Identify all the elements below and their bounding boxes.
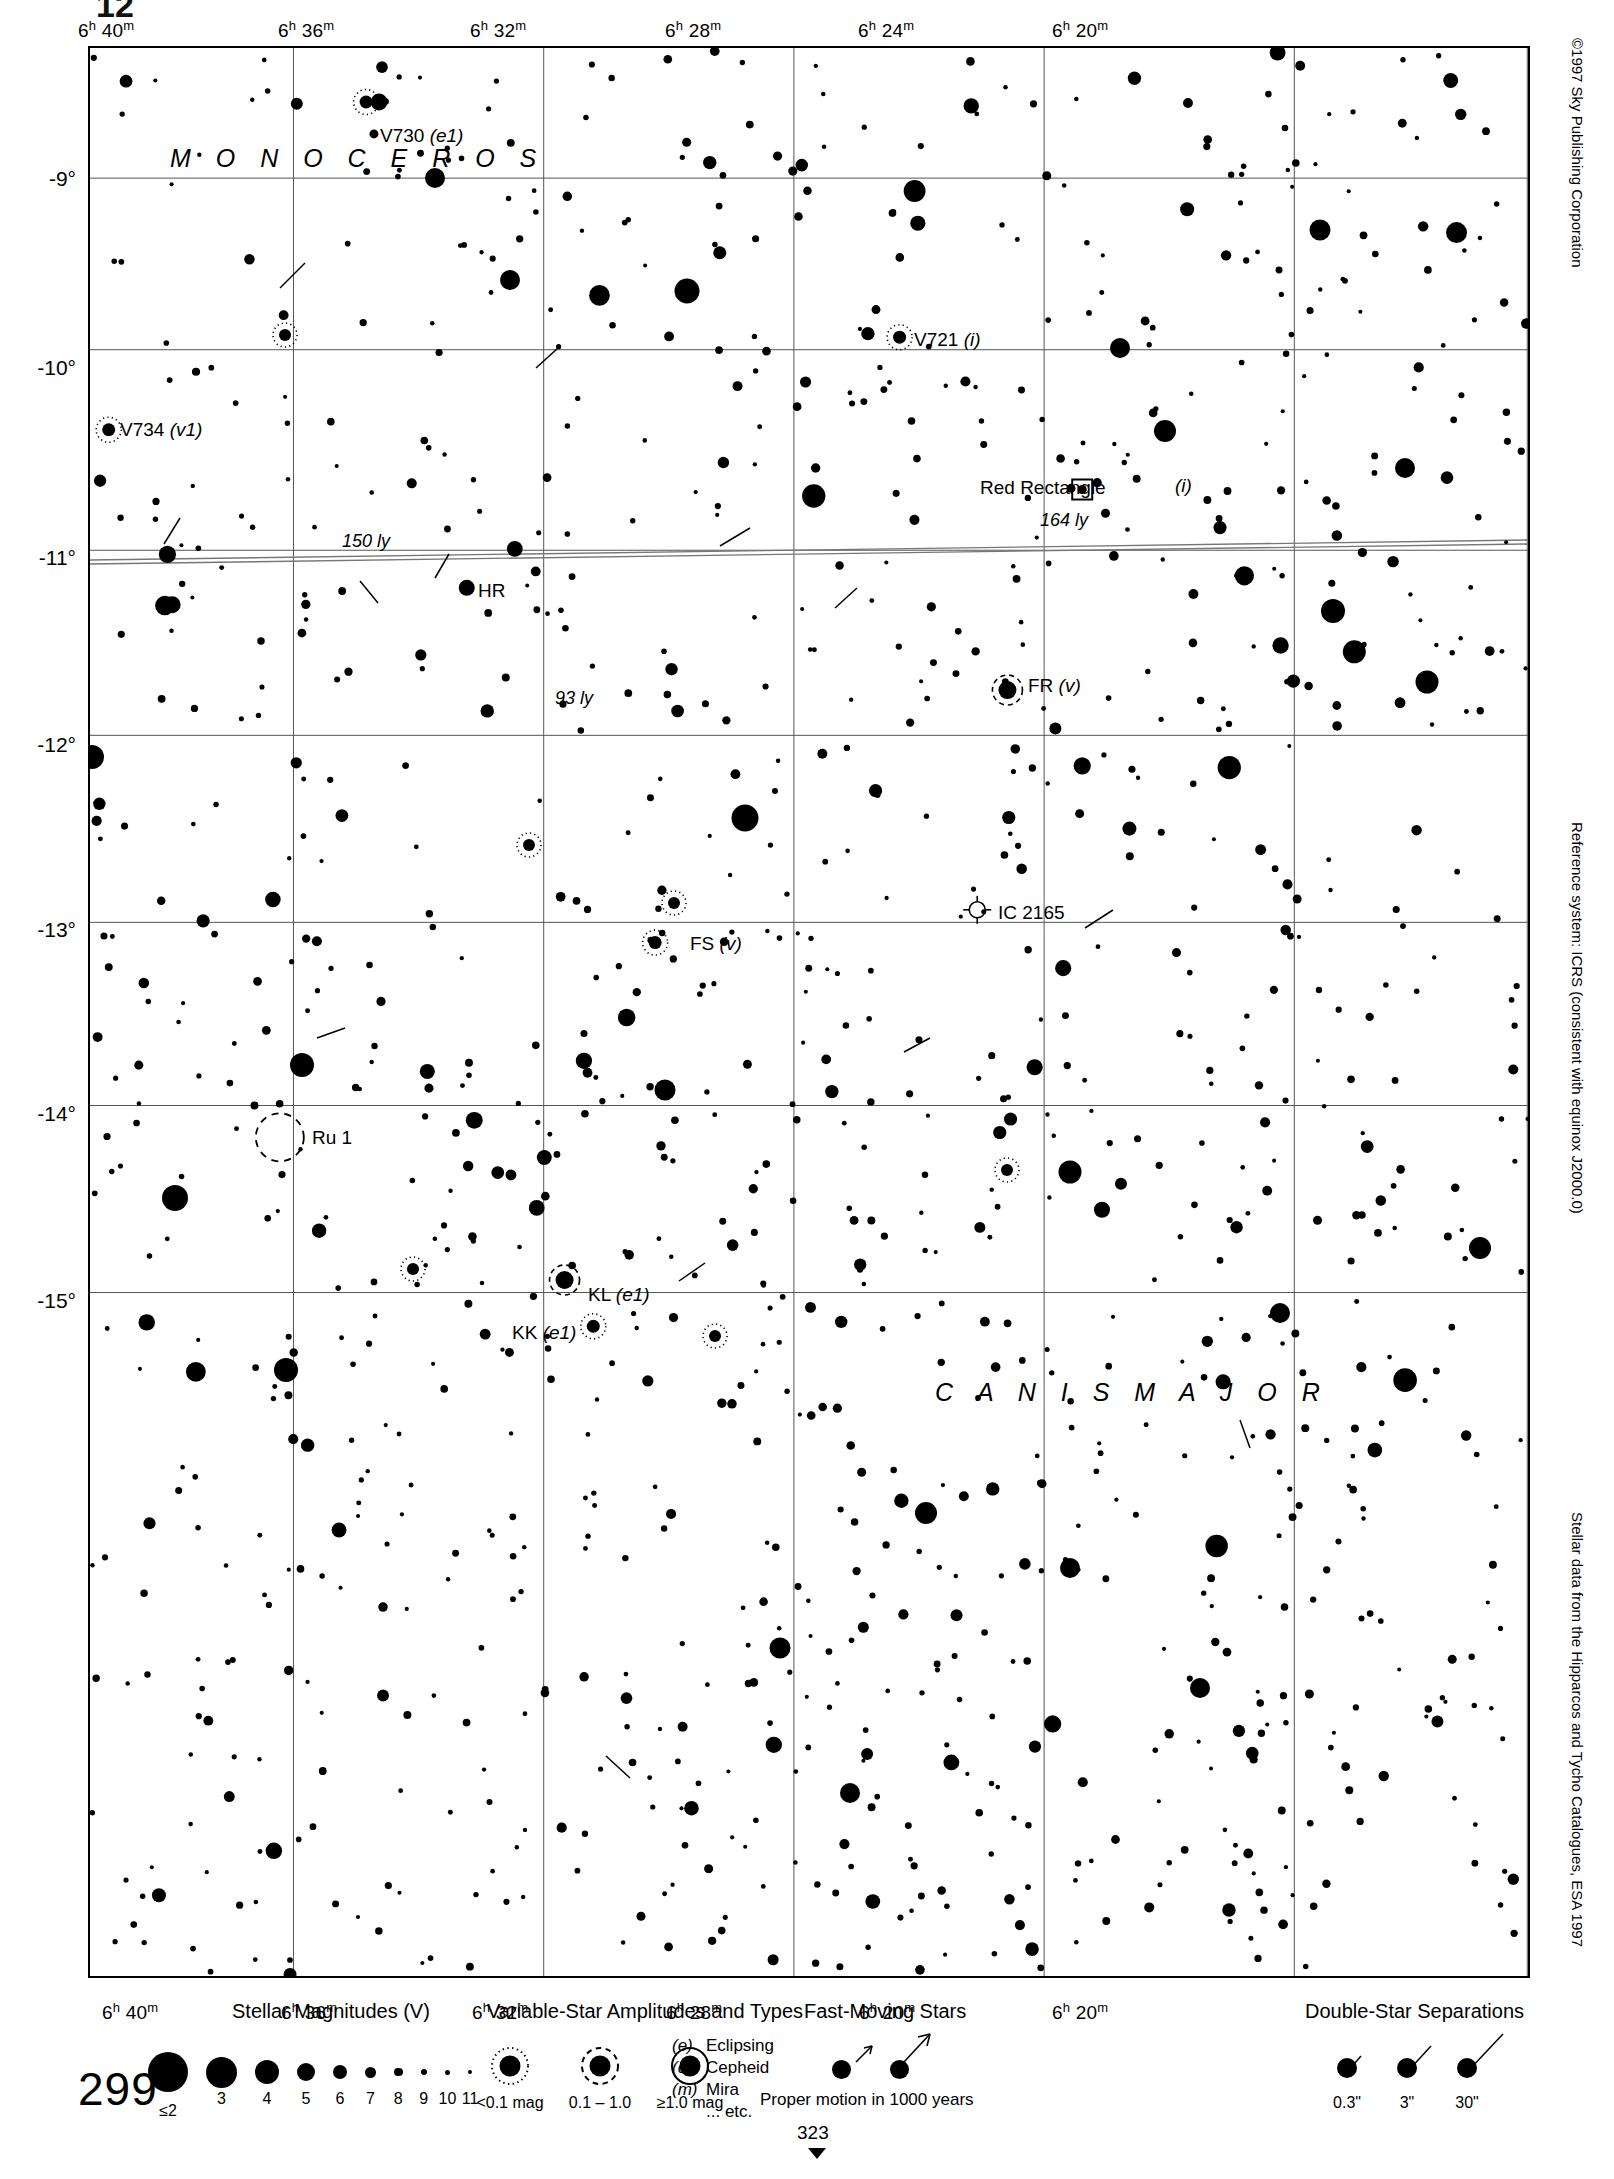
double-star-companion-line-2 <box>1467 2032 1505 2072</box>
distance-annotation-164ly: 164 ly <box>1040 510 1088 531</box>
variable-amplitude-label-1: 0.1 – 1.0 <box>554 2094 646 2112</box>
magnitude-label-0: ≤2 <box>146 2102 190 2120</box>
double-star-label-0: 0.3" <box>1315 2094 1379 2112</box>
continuation-number: 323 <box>797 2122 829 2144</box>
object-label-red-rectangle-type: (i) <box>1175 476 1192 495</box>
sky-chart-frame: M O N O C E R O S C A N I S M A J O R 15… <box>88 46 1530 1978</box>
legend-title-variables: Variable-Star Amplitudes and Types <box>487 2000 803 2023</box>
ra-tick-label-top-5: 6h 20m <box>1052 18 1108 42</box>
credit-copyright: ©1997 Sky Publishing Corporation <box>1569 38 1586 268</box>
magnitude-dot-9 <box>468 2070 472 2074</box>
magnitude-dot-3 <box>297 2063 315 2081</box>
object-label-fr[interactable]: FR (v) <box>1028 676 1081 695</box>
variable-type-3: ... etc. <box>672 2102 752 2122</box>
credit-reference-system: Reference system: ICRS (consistent with … <box>1569 822 1586 1214</box>
object-label-v721[interactable]: V721 (i) <box>914 330 981 349</box>
double-star-companion-line-1 <box>1407 2044 1433 2072</box>
object-label-v730[interactable]: V730 (e1) <box>380 126 463 145</box>
ra-tick-label-top-1: 6h 36m <box>278 18 334 42</box>
distance-annotation-150ly: 150 ly <box>342 531 390 552</box>
magnitude-dot-1 <box>206 2057 237 2088</box>
object-label-kk[interactable]: KK (e1) <box>512 1323 576 1342</box>
chart-legend: 299 Stellar Magnitudes (V) ≤234567891011… <box>0 1990 1614 2179</box>
magnitude-dot-4 <box>333 2065 347 2079</box>
magnitude-dot-2 <box>255 2060 279 2084</box>
ra-tick-label-top-0: 6h 40m <box>78 18 134 42</box>
magnitude-dot-5 <box>365 2067 376 2078</box>
dec-tick-label-1: -10° <box>18 356 76 380</box>
variable-amplitude-label-0: <0.1 mag <box>464 2094 556 2112</box>
legend-title-doubles: Double-Star Separations <box>1305 2000 1524 2023</box>
magnitude-label-2: 4 <box>245 2090 289 2108</box>
magnitude-dot-7 <box>421 2069 428 2076</box>
star-chart-page: 12 6h 40m 6h 36m 6h 32m 6h 28m 6h 24m 6h… <box>0 0 1614 2179</box>
ra-tick-label-top-2: 6h 32m <box>470 18 526 42</box>
distance-annotation-93ly: 93 ly <box>555 688 593 709</box>
object-label-kl[interactable]: KL (e1) <box>588 1285 650 1304</box>
variable-type-1: (c)Cepheid <box>672 2058 769 2078</box>
ra-tick-label-top-4: 6h 24m <box>858 18 914 42</box>
dec-tick-label-5: -14° <box>18 1102 76 1126</box>
magnitude-label-1: 3 <box>200 2090 244 2108</box>
magnitude-dot-0 <box>148 2052 188 2092</box>
dec-tick-label-3: -12° <box>18 733 76 757</box>
constellation-name-canis-major: C A N I S M A J O R <box>935 1378 1329 1407</box>
dec-tick-label-6: -15° <box>18 1289 76 1313</box>
double-star-label-1: 3" <box>1375 2094 1439 2112</box>
magnitude-dot-8 <box>445 2070 450 2075</box>
double-star-companion-line-0 <box>1347 2054 1363 2072</box>
legend-caption-proper-motion: Proper motion in 1000 years <box>760 2090 974 2110</box>
variable-type-2: (m)Mira <box>672 2080 739 2100</box>
double-star-label-2: 30" <box>1435 2094 1499 2112</box>
object-label-hr[interactable]: HR <box>478 581 505 600</box>
variable-symbol-dashed <box>578 2044 622 2088</box>
ra-tick-label-top-3: 6h 28m <box>665 18 721 42</box>
object-label-red-rectangle[interactable]: Red Rectangle <box>980 478 1106 497</box>
magnitude-dot-6 <box>394 2068 403 2077</box>
starfield <box>90 48 1528 1976</box>
proper-motion-arrows-icon <box>800 2020 980 2100</box>
object-label-fs[interactable]: FS (v) <box>690 934 742 953</box>
dec-tick-label-2: -11° <box>18 546 76 570</box>
object-label-ru1[interactable]: Ru 1 <box>312 1128 352 1147</box>
dec-tick-label-0: -9° <box>18 167 76 191</box>
object-label-ic2165[interactable]: IC 2165 <box>998 903 1065 922</box>
object-label-v734[interactable]: V734 (v1) <box>120 420 202 439</box>
dec-tick-label-4: -13° <box>18 918 76 942</box>
credit-data-source: Stellar data from the Hipparcos and Tych… <box>1569 1512 1586 1947</box>
variable-symbol-dotted <box>488 2044 532 2088</box>
continuation-arrow-icon <box>808 2148 826 2159</box>
legend-title-magnitudes: Stellar Magnitudes (V) <box>232 2000 430 2023</box>
variable-type-0: (e)Eclipsing <box>672 2036 774 2056</box>
constellation-name-monoceros: M O N O C E R O S <box>170 144 545 173</box>
